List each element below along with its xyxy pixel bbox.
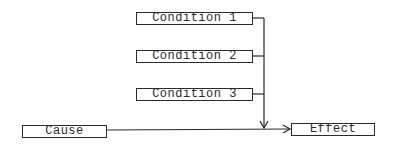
node-effect: Effect — [291, 123, 375, 136]
node-condition-2: Condition 2 — [136, 50, 253, 63]
node-condition-3: Condition 3 — [136, 88, 253, 101]
node-cause: Cause — [22, 125, 107, 138]
connector-cause-effect — [106, 129, 290, 130]
node-condition-1: Condition 1 — [136, 12, 253, 25]
diagram-canvas: Condition 1 Condition 2 Condition 3 Caus… — [0, 0, 397, 148]
